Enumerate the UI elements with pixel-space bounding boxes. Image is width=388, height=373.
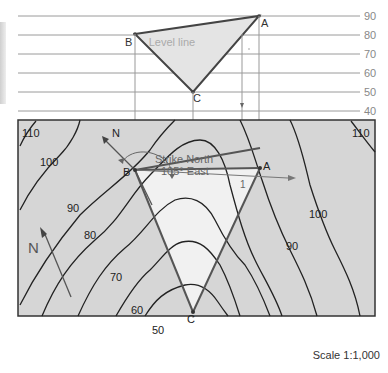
elevation-80: 80 bbox=[364, 29, 376, 41]
contour-label-90-right: 90 bbox=[286, 240, 298, 252]
scale-label: Scale 1:1,000 bbox=[313, 349, 380, 361]
strike-dip-diagram: 90 80 70 60 50 40 Level line B A C bbox=[0, 0, 388, 373]
contour-label-90-left: 90 bbox=[67, 202, 79, 214]
contour-label-110-right: 110 bbox=[352, 127, 370, 139]
map-point-c: C bbox=[187, 313, 195, 325]
north-arrow-label: N bbox=[28, 239, 39, 256]
strike-label-line1: Strike North bbox=[155, 153, 213, 165]
map-point-a: A bbox=[263, 160, 271, 172]
elevation-90: 90 bbox=[364, 10, 376, 22]
section-point-b: B bbox=[125, 36, 132, 48]
elevation-70: 70 bbox=[364, 48, 376, 60]
section-point-c: C bbox=[193, 92, 201, 104]
contour-label-50: 50 bbox=[152, 324, 164, 336]
contour-label-60: 60 bbox=[131, 304, 143, 316]
contour-label-80: 80 bbox=[84, 229, 96, 241]
elevation-60: 60 bbox=[364, 67, 376, 79]
contour-label-70: 70 bbox=[110, 271, 122, 283]
elevation-labels: 90 80 70 60 50 40 bbox=[364, 10, 376, 117]
section-point-a: A bbox=[261, 17, 269, 29]
dip-marker: 1 bbox=[240, 179, 246, 190]
elevation-50: 50 bbox=[364, 86, 376, 98]
contour-label-100-left: 100 bbox=[40, 156, 58, 168]
strike-label-line2: 105° East bbox=[161, 165, 209, 177]
contour-label-100-right: 100 bbox=[309, 208, 327, 220]
level-line-label: Level line bbox=[149, 36, 195, 48]
map-point-b: B bbox=[123, 166, 130, 178]
elevation-40: 40 bbox=[364, 105, 376, 117]
north-line-label: N bbox=[112, 127, 120, 139]
contour-label-110-left: 110 bbox=[22, 127, 40, 139]
